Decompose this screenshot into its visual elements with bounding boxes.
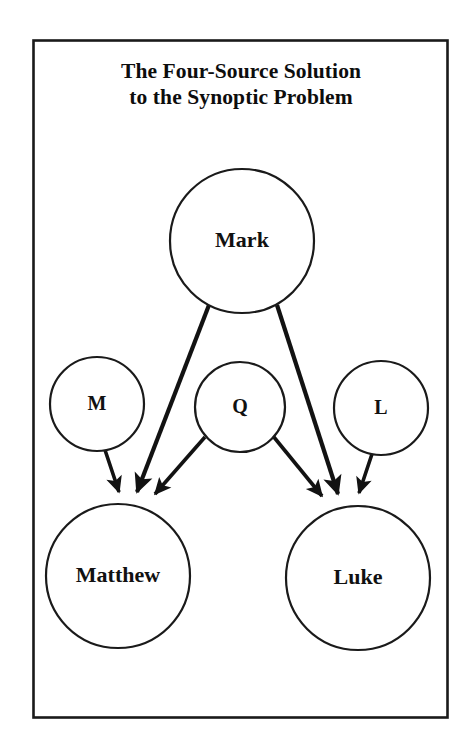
node-l[interactable]: L (334, 361, 428, 455)
node-mark[interactable]: Mark (170, 169, 314, 313)
edge-mark-to-luke (277, 305, 338, 494)
edge-q-to-luke (273, 436, 322, 496)
node-q-label: Q (232, 395, 248, 417)
node-luke[interactable]: Luke (286, 506, 430, 650)
synoptic-problem-diagram: The Four-Source Solution to the Synoptic… (0, 0, 474, 754)
edge-q-to-matthew (155, 437, 205, 494)
node-matthew-label: Matthew (76, 562, 160, 587)
node-mark-label: Mark (215, 227, 270, 252)
node-q[interactable]: Q (195, 362, 285, 452)
node-luke-label: Luke (334, 564, 383, 589)
edge-l-to-luke (359, 454, 372, 493)
figure-root: The Four-Source Solution to the Synoptic… (0, 0, 474, 754)
node-m[interactable]: M (50, 357, 144, 451)
figure-title-line-2: to the Synoptic Problem (129, 85, 352, 109)
figure-title-line-1: The Four-Source Solution (121, 59, 361, 83)
node-l-label: L (374, 396, 387, 418)
node-matthew[interactable]: Matthew (46, 504, 190, 648)
edge-m-to-matthew (105, 450, 119, 492)
node-m-label: M (88, 392, 107, 414)
